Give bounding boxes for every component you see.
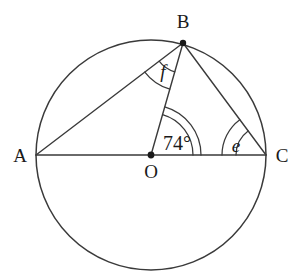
angle-label-abo: f: [160, 61, 168, 82]
geometry-diagram: A B C O 74° e f: [0, 0, 300, 279]
point-label-a: A: [13, 145, 27, 166]
angle-label-boc: 74°: [163, 132, 191, 154]
point-label-c: C: [276, 145, 289, 166]
segment-ab-chord: [36, 43, 183, 155]
vertex-dot-o: [148, 152, 155, 159]
point-label-b: B: [177, 11, 190, 32]
vertex-dot-b: [180, 40, 186, 46]
point-label-o: O: [144, 161, 158, 182]
geometry-canvas: A B C O 74° e f: [0, 0, 300, 279]
angle-arc-abo-outer: [145, 72, 170, 89]
angle-label-bco: e: [232, 135, 240, 156]
segment-bc-chord: [183, 43, 266, 155]
